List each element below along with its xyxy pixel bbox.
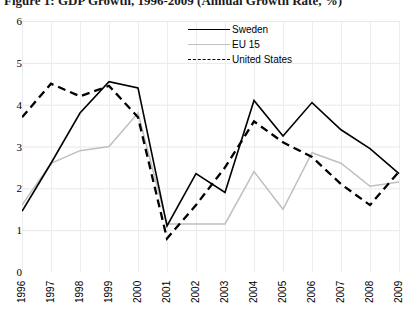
- legend-item-united-states: United States: [188, 52, 338, 67]
- legend-swatch-gray-icon: [188, 39, 230, 51]
- x-axis-tick-label: 2005: [278, 263, 288, 303]
- legend-label: EU 15: [230, 39, 260, 51]
- x-axis-tick-label: 2006: [307, 263, 317, 303]
- series-line-eu-15: [22, 113, 399, 224]
- y-axis-tick-label: 3: [6, 142, 22, 153]
- x-axis-tick-label: 2000: [133, 263, 143, 303]
- chart-title: Figure 1: GDP Growth, 1996-2009 (Annual …: [4, 0, 404, 9]
- y-axis-tick-label: 4: [6, 100, 22, 111]
- x-axis-tick-label: 2008: [365, 263, 375, 303]
- x-axis: 1996199719981999200020012002200320042005…: [22, 272, 400, 312]
- x-axis-tick-label: 1998: [75, 263, 85, 303]
- x-axis-tick-label: 1996: [17, 263, 27, 303]
- gdp-growth-figure: Figure 1: GDP Growth, 1996-2009 (Annual …: [0, 0, 406, 312]
- x-axis-tick-label: 2001: [162, 263, 172, 303]
- x-axis-tick-label: 1997: [46, 263, 56, 303]
- chart-legend: Sweden EU 15 United States: [188, 22, 338, 68]
- legend-label: United States: [230, 54, 292, 66]
- legend-item-eu15: EU 15: [188, 37, 338, 52]
- series-line-sweden: [22, 82, 399, 226]
- y-axis-tick-label: 6: [6, 16, 22, 27]
- legend-item-sweden: Sweden: [188, 22, 338, 37]
- x-axis-tick-label: 2002: [191, 263, 201, 303]
- legend-label: Sweden: [230, 24, 268, 36]
- y-axis-tick-label: 5: [6, 58, 22, 69]
- series-line-united-states: [22, 84, 399, 239]
- x-axis-tick-label: 2007: [336, 263, 346, 303]
- y-axis-tick-label: 1: [6, 225, 22, 236]
- y-axis-tick-label: 2: [6, 183, 22, 194]
- legend-swatch-solid-icon: [188, 24, 230, 36]
- legend-swatch-dashed-icon: [188, 54, 230, 66]
- x-axis-tick-label: 2009: [394, 263, 404, 303]
- x-axis-tick-label: 1999: [104, 263, 114, 303]
- x-axis-tick-label: 2003: [220, 263, 230, 303]
- x-axis-tick-label: 2004: [249, 263, 259, 303]
- y-axis: 0123456: [0, 0, 22, 292]
